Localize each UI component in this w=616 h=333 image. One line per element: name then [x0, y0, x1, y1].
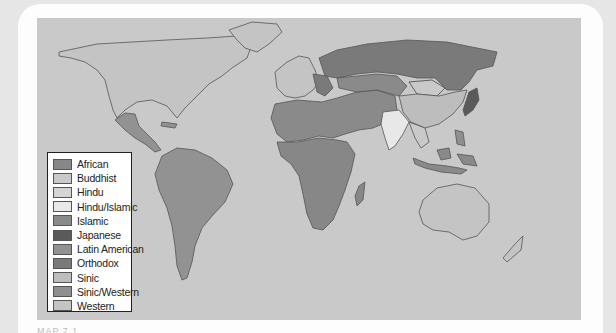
legend-swatch: [53, 230, 72, 241]
region-australia: [419, 184, 489, 240]
source-credit-wrap: Huntington (1996, 17): [23, 296, 33, 333]
legend-item-african: African: [53, 157, 131, 171]
legend-swatch: [53, 173, 72, 184]
legend-label: Latin American: [77, 243, 144, 255]
legend-label: Sinic: [77, 272, 99, 284]
figure-caption: MAP 7.1: [37, 326, 78, 333]
legend-swatch: [53, 187, 72, 198]
legend-item-latin-american: Latin American: [53, 242, 131, 256]
legend-swatch: [53, 300, 72, 311]
region-north-america: [59, 36, 252, 118]
legend-label: Hindu: [77, 186, 103, 198]
legend-item-hindu: Hindu: [53, 185, 131, 199]
legend-swatch: [53, 215, 72, 226]
legend-swatch: [53, 286, 72, 297]
region-philippines: [455, 130, 465, 146]
region-madagascar: [355, 182, 365, 206]
legend-item-hindu-islamic: Hindu/Islamic: [53, 200, 131, 214]
region-indonesia: [413, 158, 467, 174]
legend-label: Orthodox: [77, 257, 119, 269]
legend-item-sinic-western: Sinic/Western: [53, 285, 131, 299]
region-western-europe: [275, 56, 319, 98]
region-india: [381, 110, 409, 150]
legend-item-japanese: Japanese: [53, 228, 131, 242]
region-sub-saharan-africa: [277, 138, 355, 230]
legend-label: Buddhist: [77, 172, 116, 184]
legend-swatch: [53, 244, 72, 255]
legend-item-orthodox: Orthodox: [53, 256, 131, 270]
map-legend: African Buddhist Hindu Hindu/Islamic Isl…: [47, 152, 132, 312]
legend-swatch: [53, 272, 72, 283]
legend-item-sinic: Sinic: [53, 271, 131, 285]
region-north-africa-middle-east: [271, 90, 397, 142]
legend-label: Japanese: [77, 229, 121, 241]
legend-swatch: [53, 201, 72, 212]
legend-swatch: [53, 258, 72, 269]
legend-label: African: [77, 158, 108, 170]
legend-label: Islamic: [77, 215, 108, 227]
legend-item-western: Western: [53, 299, 131, 313]
legend-label: Western: [77, 300, 115, 312]
legend-item-buddhist: Buddhist: [53, 171, 131, 185]
legend-swatch: [53, 159, 72, 170]
legend-label: Hindu/Islamic: [77, 201, 137, 213]
region-south-america: [155, 148, 233, 280]
legend-label: Sinic/Western: [77, 286, 139, 298]
legend-item-islamic: Islamic: [53, 214, 131, 228]
region-new-zealand: [503, 236, 523, 262]
page-margin: [604, 0, 616, 333]
region-central-america: [115, 113, 161, 152]
